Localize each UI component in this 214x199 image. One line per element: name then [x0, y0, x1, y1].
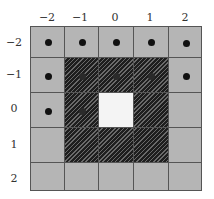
grid-line	[133, 27, 134, 190]
column-label: −1	[63, 12, 97, 24]
row-label: −2	[2, 37, 26, 49]
dot-marker	[79, 73, 86, 80]
column-label: 1	[133, 12, 167, 24]
column-label: 0	[98, 12, 132, 24]
dot-marker	[183, 73, 190, 80]
grid	[30, 26, 202, 191]
dot-marker	[45, 108, 52, 115]
row-label: −1	[2, 69, 26, 81]
dot-marker	[183, 40, 190, 47]
grid-line	[31, 57, 201, 58]
row-label: 1	[2, 139, 26, 151]
grid-line	[168, 27, 169, 190]
grid-line	[64, 27, 65, 190]
dot-marker	[113, 39, 120, 46]
dot-marker	[79, 39, 86, 46]
grid-line	[31, 127, 201, 128]
center-cell	[99, 93, 134, 127]
grid-line	[98, 27, 99, 190]
grid-line	[31, 92, 201, 93]
row-label: 2	[2, 173, 26, 185]
dot-marker	[79, 108, 86, 115]
dot-marker	[45, 39, 52, 46]
row-label: 0	[2, 103, 26, 115]
grid-line	[31, 162, 201, 163]
column-label: 2	[168, 12, 202, 24]
dot-marker	[148, 39, 155, 46]
dot-marker	[148, 73, 155, 80]
dot-marker	[45, 73, 52, 80]
dot-marker	[113, 73, 120, 80]
column-label: −2	[30, 12, 64, 24]
